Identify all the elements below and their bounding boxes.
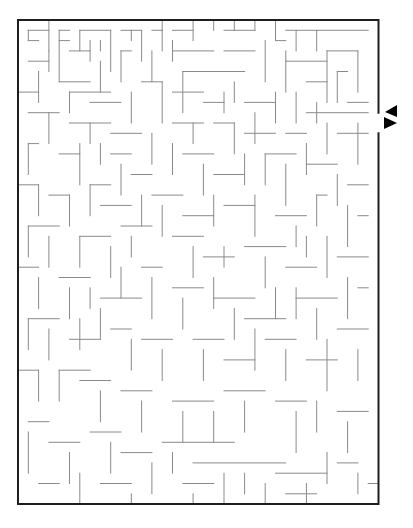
entry-arrow-icon — [385, 105, 397, 117]
maze-canvas — [0, 0, 413, 528]
exit-arrow-icon — [384, 117, 397, 129]
maze-puzzle — [0, 0, 413, 528]
maze-walls — [18, 20, 379, 504]
maze-outer-border — [18, 20, 379, 504]
maze-border — [18, 20, 379, 504]
